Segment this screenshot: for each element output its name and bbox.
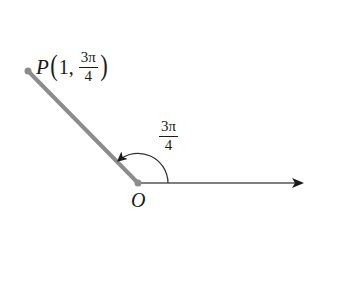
close-paren: ) [100, 50, 108, 80]
polar-diagram [0, 0, 338, 307]
coord-separator: , [69, 57, 74, 77]
angle-fraction: 3π 4 [159, 119, 178, 154]
open-paren: ( [50, 50, 58, 80]
angle-denominator: 4 [165, 137, 173, 154]
point-theta-denominator: 4 [85, 68, 93, 85]
point-p-dot [25, 68, 32, 75]
origin-label: O [131, 190, 145, 210]
point-name: P [36, 57, 49, 78]
point-theta-numerator: 3π [79, 50, 98, 68]
angle-numerator: 3π [159, 119, 178, 137]
point-r-value: 1 [59, 57, 69, 77]
point-theta-fraction: 3π 4 [79, 50, 98, 85]
origin-dot [135, 180, 142, 187]
terminal-ray [28, 71, 138, 183]
angle-label: 3π 4 [158, 119, 179, 154]
point-p-label: P ( 1 , 3π 4 ) [36, 50, 109, 85]
